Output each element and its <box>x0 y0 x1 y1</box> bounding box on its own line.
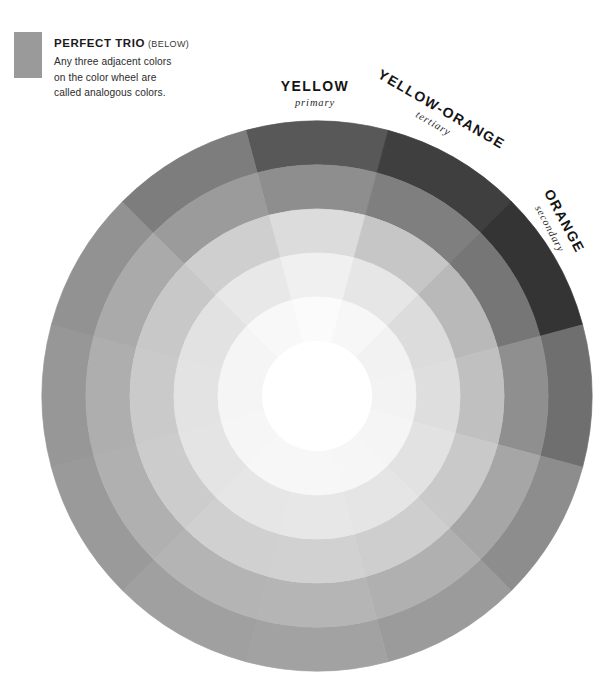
wheel-segment-yellow-ring-4 <box>280 253 354 300</box>
wheel-label-yellow-role: primary <box>230 97 400 108</box>
wheel-segment-blue-green-ring-3 <box>130 348 179 445</box>
legend-body: Any three adjacent colors on the color w… <box>54 54 189 101</box>
legend-text-block: PERFECT TRIO(BELOW) Any three adjacent c… <box>54 32 189 101</box>
legend-color-swatch <box>14 32 42 78</box>
wheel-segment-blue-green-ring-4 <box>174 359 221 433</box>
color-wheel-diagram: PERFECT TRIO(BELOW) Any three adjacent c… <box>0 0 616 682</box>
legend-title-note: (BELOW) <box>148 39 189 49</box>
legend-body-line-3: called analogous colors. <box>54 85 189 101</box>
wheel-segment-blue-green-ring-2 <box>86 336 136 456</box>
legend-title-row: PERFECT TRIO(BELOW) <box>54 33 189 51</box>
wheel-segment-violet-ring-4 <box>280 492 354 539</box>
wheel-segment-red-orange-ring-3 <box>455 348 504 445</box>
wheel-segment-violet-ring-3 <box>269 534 366 583</box>
wheel-segment-yellow-ring-2 <box>257 165 377 215</box>
legend-perfect-trio: PERFECT TRIO(BELOW) Any three adjacent c… <box>14 32 189 101</box>
wheel-segment-violet-ring-2 <box>257 577 377 627</box>
wheel-segment-red-orange-ring-2 <box>498 336 548 456</box>
legend-body-line-2: on the color wheel are <box>54 70 189 86</box>
wheel-center-hole <box>262 341 372 451</box>
legend-body-line-1: Any three adjacent colors <box>54 54 189 70</box>
wheel-segment-yellow-ring-3 <box>269 209 366 258</box>
wheel-segment-red-orange-ring-4 <box>413 359 460 433</box>
legend-title: PERFECT TRIO <box>54 37 145 49</box>
